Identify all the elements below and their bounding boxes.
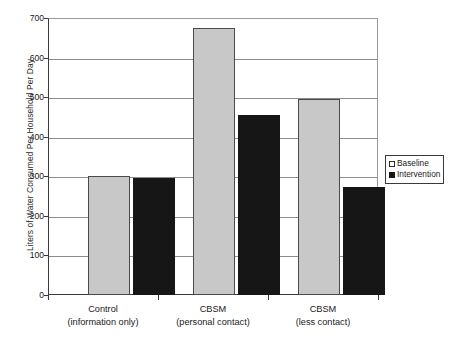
legend-label: Intervention (397, 169, 440, 180)
x-tick-mark (268, 295, 269, 300)
category-line-1: Control (88, 304, 118, 314)
y-tick-label: 300 (10, 172, 44, 181)
y-tick-label: 600 (10, 54, 44, 63)
x-category-label-control: Control (information only) (43, 303, 163, 328)
x-category-label-cbsm-personal: CBSM (personal contact) (153, 303, 273, 328)
x-tick-mark (48, 295, 49, 300)
chart-legend: Baseline Intervention (385, 155, 444, 184)
y-axis-tick-labels: 700 600 500 400 300 200 100 0 (4, 18, 44, 295)
open-square-marker-icon (389, 161, 395, 167)
bar-baseline-cbsm-less (298, 99, 340, 295)
category-line-2: (information only) (43, 316, 163, 329)
x-tick-mark (378, 295, 379, 300)
legend-item-intervention: Intervention (389, 169, 440, 180)
y-tick-label: 400 (10, 133, 44, 142)
x-category-label-cbsm-less: CBSM (less contact) (263, 303, 383, 328)
y-tick-label: 500 (10, 93, 44, 102)
category-line-1: CBSM (310, 304, 337, 314)
bar-intervention-control (133, 178, 175, 296)
legend-item-baseline: Baseline (389, 158, 440, 169)
bar-chart-figure: Liters of Water Consumed Per Household P… (0, 0, 474, 338)
category-line-2: (personal contact) (153, 316, 273, 329)
bars-layer (48, 18, 378, 295)
legend-label: Baseline (397, 158, 429, 169)
y-tick-label: 200 (10, 212, 44, 221)
y-tick-label: 0 (10, 291, 44, 300)
category-line-2: (less contact) (263, 316, 383, 329)
y-tick-label: 100 (10, 251, 44, 260)
bar-baseline-control (88, 176, 130, 295)
filled-square-marker-icon (389, 172, 395, 178)
bar-intervention-cbsm-personal (238, 115, 280, 295)
bar-baseline-cbsm-personal (193, 28, 235, 295)
category-line-1: CBSM (200, 304, 227, 314)
bar-intervention-cbsm-less (343, 187, 385, 295)
x-tick-mark (158, 295, 159, 300)
y-tick-label: 700 (10, 14, 44, 23)
